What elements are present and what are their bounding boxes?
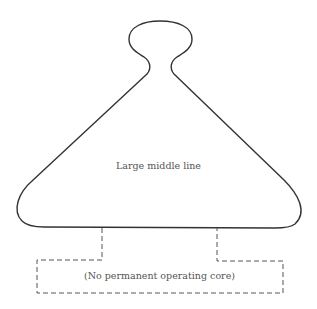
diagram-shapes — [0, 0, 317, 309]
no-operating-core-label: (No permanent operating core) — [36, 270, 283, 281]
no-operating-core-box — [37, 228, 283, 293]
large-middle-line-shape — [17, 21, 301, 228]
large-middle-line-label: Large middle line — [0, 160, 317, 171]
organization-diagram: Large middle line (No permanent operatin… — [0, 0, 317, 309]
